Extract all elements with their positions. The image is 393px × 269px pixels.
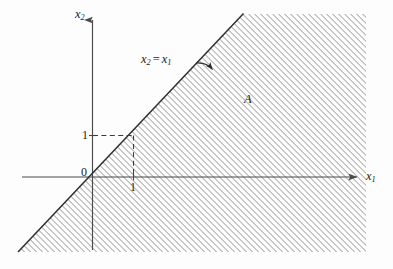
region-A-hatch bbox=[18, 14, 366, 252]
y-axis-tick-label-1: 1 bbox=[82, 129, 88, 141]
x-axis-tick-label-1: 1 bbox=[130, 181, 136, 193]
origin-label: 0 bbox=[81, 166, 87, 178]
y-axis-label: x2 bbox=[75, 8, 85, 23]
boundary-line-equation-label: x2=x1 bbox=[141, 53, 171, 68]
x-axis-label: x1 bbox=[366, 170, 376, 185]
x-axis-label-subscript: 1 bbox=[372, 175, 376, 184]
equation-equals-sign: = bbox=[151, 52, 162, 66]
region-label-A: A bbox=[244, 93, 252, 106]
equation-rhs-subscript: 1 bbox=[167, 58, 171, 67]
y-axis-label-subscript: 2 bbox=[81, 13, 85, 22]
figure-canvas: x2 x1 0 1 1 A x2=x1 bbox=[0, 0, 393, 269]
diagram-svg bbox=[0, 0, 393, 269]
